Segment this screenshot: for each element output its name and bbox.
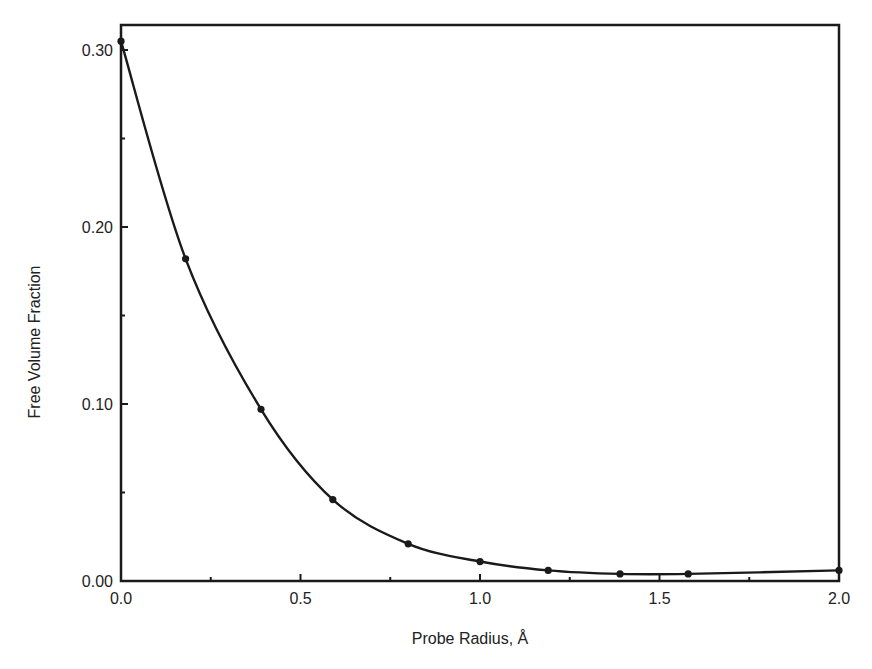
data-point xyxy=(182,255,189,262)
y-tick-label: 0.30 xyxy=(82,42,113,59)
plot-frame xyxy=(121,25,839,581)
data-point xyxy=(117,38,124,45)
y-tick-label: 0.20 xyxy=(82,219,113,236)
x-axis-ticks: 0.00.51.01.52.0 xyxy=(110,574,850,607)
x-tick-label: 0.0 xyxy=(110,590,132,607)
y-tick-label: 0.10 xyxy=(82,396,113,413)
data-point xyxy=(616,570,623,577)
series-curve xyxy=(121,41,839,574)
data-point xyxy=(257,406,264,413)
data-point xyxy=(476,558,483,565)
data-point xyxy=(685,570,692,577)
x-tick-label: 1.5 xyxy=(648,590,670,607)
plot-border xyxy=(121,25,839,581)
data-point xyxy=(835,567,842,574)
x-tick-label: 0.5 xyxy=(289,590,311,607)
data-point xyxy=(545,567,552,574)
data-point xyxy=(329,496,336,503)
line-chart: 0.00.51.01.52.0 0.000.100.200.30 Probe R… xyxy=(0,0,872,669)
x-axis-title: Probe Radius, Å xyxy=(412,629,529,647)
x-tick-label: 2.0 xyxy=(828,590,850,607)
data-point-markers xyxy=(117,38,842,578)
chart: 0.00.51.01.52.0 0.000.100.200.30 Probe R… xyxy=(0,0,872,669)
x-tick-label: 1.0 xyxy=(469,590,491,607)
data-point xyxy=(405,540,412,547)
y-axis-title: Free Volume Fraction xyxy=(26,266,43,419)
y-tick-label: 0.00 xyxy=(82,573,113,590)
data-series-line xyxy=(121,41,839,574)
